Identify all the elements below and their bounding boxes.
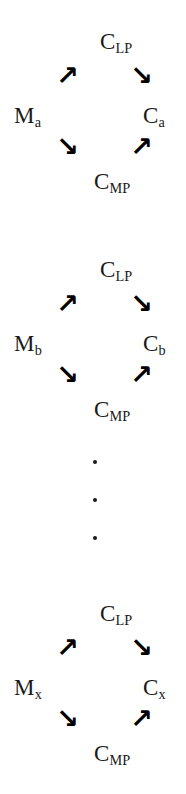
block-x-left-label-sub: x (35, 686, 42, 702)
block-b-left-label-base: M (14, 331, 35, 356)
block-a-top-label-base: C (100, 29, 116, 54)
block-b-top-label-sub: LP (116, 268, 133, 284)
block-x-bottom-label-sub: MP (110, 752, 131, 768)
block-x-upper-right-arrow-icon: ↘ (130, 634, 153, 661)
block-a-left-label: Ma (14, 104, 41, 129)
block-a-upper-right-arrow-icon: ↘ (130, 62, 153, 89)
ellipsis-dot-2 (93, 498, 97, 502)
block-a-lower-right-arrow-icon: ↗ (130, 133, 153, 160)
block-x-left-label: Mx (14, 676, 42, 701)
diagram-canvas: CLP ↗ ↘ Ma Ca ↘ ↗ CMP CLP ↗ ↘ Mb Cb ↘ ↗ … (0, 0, 186, 794)
block-a-right-label-base: C (143, 103, 159, 128)
block-b-bottom-label: CMP (94, 398, 130, 423)
ellipsis-dot-1 (93, 460, 97, 464)
block-b-right-label-base: C (143, 331, 159, 356)
block-b-top-label: CLP (100, 258, 132, 283)
block-a-bottom-label-sub: MP (110, 180, 131, 196)
block-b-top-label-base: C (100, 257, 116, 282)
block-a-right-label: Ca (143, 104, 165, 129)
block-a-left-label-sub: a (35, 114, 41, 130)
block-x-left-label-base: M (14, 675, 35, 700)
block-x-bottom-label-base: C (94, 741, 110, 766)
block-b-right-label: Cb (143, 332, 166, 357)
block-a-bottom-label-base: C (94, 169, 110, 194)
block-x-upper-left-arrow-icon: ↗ (56, 634, 79, 661)
block-b-lower-left-arrow-icon: ↘ (56, 361, 79, 388)
block-a-top-label-sub: LP (116, 40, 133, 56)
block-a-left-label-base: M (14, 103, 35, 128)
block-b-bottom-label-base: C (94, 397, 110, 422)
block-a-right-label-sub: a (159, 114, 165, 130)
block-x-top-label-sub: LP (116, 612, 133, 628)
block-a-bottom-label: CMP (94, 170, 130, 195)
block-a-upper-left-arrow-icon: ↗ (56, 62, 79, 89)
block-b-left-label-sub: b (35, 342, 42, 358)
block-b-lower-right-arrow-icon: ↗ (130, 361, 153, 388)
block-a-lower-left-arrow-icon: ↘ (56, 133, 79, 160)
block-x-right-label-base: C (143, 675, 159, 700)
block-x-right-label: Cx (143, 676, 166, 701)
block-x-bottom-label: CMP (94, 742, 130, 767)
block-a-top-label: CLP (100, 30, 132, 55)
ellipsis-dot-3 (93, 536, 97, 540)
block-b-right-label-sub: b (159, 342, 166, 358)
block-x-lower-right-arrow-icon: ↗ (130, 705, 153, 732)
block-x-top-label: CLP (100, 602, 132, 627)
block-b-upper-right-arrow-icon: ↘ (130, 290, 153, 317)
block-b-bottom-label-sub: MP (110, 408, 131, 424)
block-x-right-label-sub: x (159, 686, 166, 702)
block-b-upper-left-arrow-icon: ↗ (56, 290, 79, 317)
block-x-top-label-base: C (100, 601, 116, 626)
block-x-lower-left-arrow-icon: ↘ (56, 705, 79, 732)
block-b-left-label: Mb (14, 332, 42, 357)
